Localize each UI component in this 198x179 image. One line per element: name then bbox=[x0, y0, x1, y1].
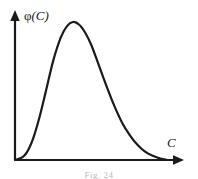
y-axis-label-arg: (C) bbox=[32, 8, 49, 23]
y-axis-arrowhead-icon bbox=[10, 10, 19, 21]
x-axis-label: C bbox=[167, 136, 176, 149]
y-axis-label-symbol: φ bbox=[24, 8, 32, 23]
figure-container: φ(C) C Fig. 24 bbox=[0, 0, 198, 179]
plot-canvas bbox=[0, 0, 198, 179]
distribution-curve bbox=[15, 22, 168, 160]
y-axis-label: φ(C) bbox=[24, 9, 49, 22]
figure-caption: Fig. 24 bbox=[0, 170, 198, 179]
x-axis-arrowhead-icon bbox=[173, 155, 184, 164]
